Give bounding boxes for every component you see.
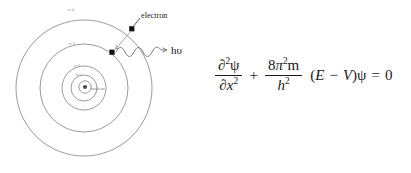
partial-derivative-fraction: ∂2ψ ∂x2 [215,57,242,94]
electron-dot-outer [129,26,134,31]
schrodinger-equation: ∂2ψ ∂x2 + 8π2m h2 (E−V) [213,57,392,94]
nucleus-label: nucleus [91,86,105,91]
energy-symbol: E [315,67,324,83]
nucleus-dot [83,85,87,89]
coefficient-fraction: 8π2m h2 [265,57,302,94]
partial-derivative-denominator: ∂x2 [216,77,241,94]
shell-label-n2: n=2 [74,64,80,68]
plus-operator: + [249,67,257,84]
electron-transition-arrow [116,32,131,49]
bohr-atom-diagram: n=4 n=3 n=2 n=1 nucleus electron hυ [0,0,205,173]
coefficient-numerator: 8π2m [265,57,302,74]
psi-symbol-numerator: ψ [230,57,239,73]
energy-term: (E−V)ψ [310,67,366,84]
shell-label-n1: n=1 [76,73,82,77]
x-exponent: 2 [233,76,238,86]
pi-symbol: π [275,57,283,73]
coefficient-denominator: h2 [275,77,293,94]
planck-exponent: 2 [285,76,290,86]
minus-operator: − [329,67,337,83]
fraction-bar-first [215,75,242,76]
electron-leader-line [133,18,140,26]
shell-label-n3: n=3 [69,42,75,46]
photon-energy-label: hυ [171,44,183,56]
right-hand-side: 0 [385,67,393,84]
partial-derivative-numerator: ∂2ψ [215,57,242,74]
potential-symbol: V [343,67,352,83]
electron-dot-inner [109,50,114,55]
electron-label: electron [141,11,167,20]
equals-operator: = [371,67,379,84]
planck-constant-symbol: h [278,77,286,93]
equation-panel: ∂2ψ ∂x2 + 8π2m h2 (E−V) [205,0,411,173]
atom-svg: n=4 n=3 n=2 n=1 nucleus electron hυ [0,0,205,173]
mass-symbol: m [288,57,300,73]
partial-symbol-denominator: ∂ [219,77,226,93]
figure-root: n=4 n=3 n=2 n=1 nucleus electron hυ [0,0,411,173]
psi-symbol-trailing: ψ [357,67,366,83]
shell-label-n4: n=4 [68,8,74,12]
fraction-bar-second [265,75,302,76]
